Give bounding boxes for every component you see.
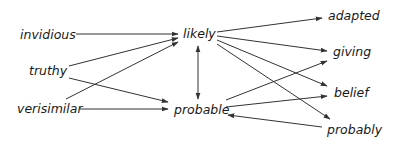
edge-probably-to-probable-arrow — [228, 115, 322, 127]
node-adapted: adapted — [328, 8, 380, 23]
node-probably: probably — [326, 122, 383, 137]
node-truthy: truthy — [29, 63, 68, 78]
word-relation-graph: invidioustruthyverisimilarlikelyprobable… — [0, 0, 393, 149]
edge-truthy-to-likely-arrow — [69, 38, 178, 66]
node-invidious: invidious — [20, 27, 76, 42]
node-likely: likely — [183, 26, 216, 41]
edge-likely-to-giving-arrow — [217, 36, 327, 51]
edge-probable-to-belief-arrow — [226, 96, 327, 107]
node-giving: giving — [333, 44, 371, 59]
node-belief: belief — [334, 85, 370, 100]
edge-probable-to-giving-arrow — [226, 61, 327, 100]
edge-likely-to-belief-arrow — [217, 40, 327, 86]
edge-likely-to-adapted-arrow — [217, 18, 322, 32]
node-verisimilar: verisimilar — [17, 101, 83, 116]
node-probable: probable — [173, 102, 230, 117]
